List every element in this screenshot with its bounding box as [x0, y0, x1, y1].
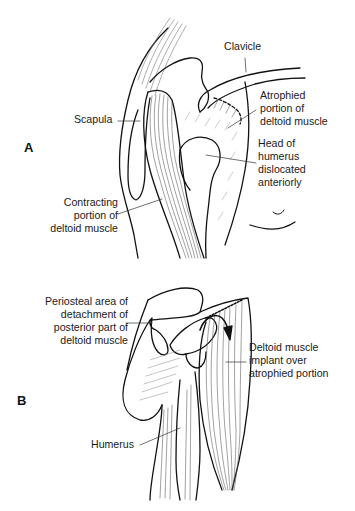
- label-contracting-line-1: Contracting: [40, 196, 118, 209]
- anatomy-illustration: [0, 0, 355, 511]
- scapula: [128, 98, 150, 200]
- panel-b-letter: B: [17, 393, 26, 408]
- label-head-of-humerus: Head of humerus dislocated anteriorly: [258, 137, 306, 189]
- label-contracting-line-2: portion of: [40, 209, 118, 222]
- label-head-line-2: humerus: [258, 150, 306, 163]
- label-periosteal-area: Periosteal area of detachment of posteri…: [20, 295, 128, 347]
- label-periosteal-line-3: posterior part of: [20, 321, 128, 334]
- label-atrophied-portion: Atrophied portion of deltoid muscle: [260, 89, 328, 128]
- label-humerus: Humerus: [91, 438, 134, 451]
- label-clavicle: Clavicle: [224, 40, 261, 53]
- atrophied-portion: [225, 82, 249, 245]
- panel-a-letter: A: [24, 140, 33, 155]
- deltoid-implant: [200, 298, 251, 490]
- humerus-shaft: [150, 405, 162, 500]
- label-periosteal-line-1: Periosteal area of: [20, 295, 128, 308]
- label-implant-line-2: implant over: [249, 354, 329, 367]
- label-atrophied-line-1: Atrophied: [260, 89, 328, 102]
- label-contracting-line-3: deltoid muscle: [40, 222, 118, 235]
- label-head-line-3: dislocated: [258, 163, 306, 176]
- label-atrophied-line-2: portion of: [260, 102, 328, 115]
- label-implant-line-3: atrophied portion: [249, 367, 329, 380]
- label-head-line-1: Head of: [258, 137, 306, 150]
- label-atrophied-line-3: deltoid muscle: [260, 115, 328, 128]
- label-periosteal-line-4: deltoid muscle: [20, 334, 128, 347]
- label-deltoid-implant: Deltoid muscle implant over atrophied po…: [249, 341, 329, 380]
- label-contracting-deltoid: Contracting portion of deltoid muscle: [40, 196, 118, 235]
- panel-b-drawing: [123, 288, 251, 500]
- contracting-deltoid: [148, 90, 204, 258]
- label-implant-line-1: Deltoid muscle: [249, 341, 329, 354]
- arm-outline: [119, 28, 168, 258]
- label-head-line-4: anteriorly: [258, 176, 306, 189]
- label-periosteal-line-2: detachment of: [20, 308, 128, 321]
- label-scapula: Scapula: [74, 113, 112, 126]
